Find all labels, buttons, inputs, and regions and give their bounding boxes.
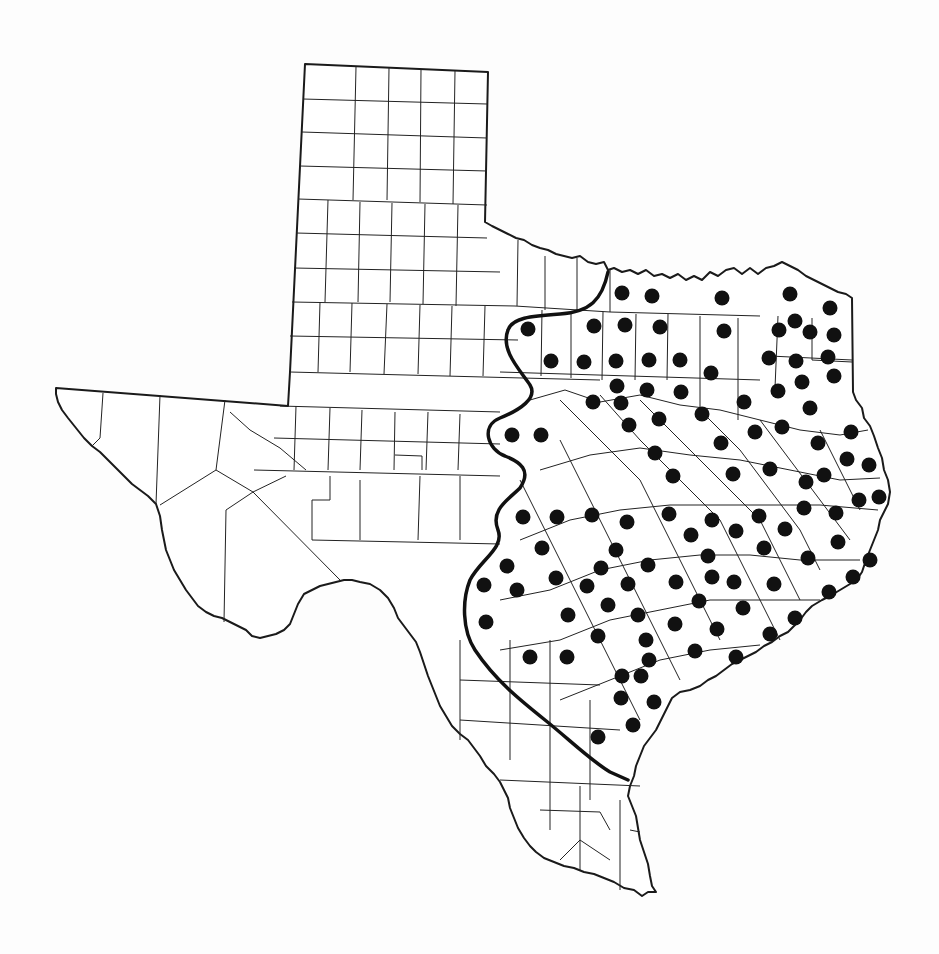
occurrence-dot	[666, 469, 681, 484]
occurrence-dot	[549, 571, 564, 586]
occurrence-dot	[684, 528, 699, 543]
occurrence-dot	[852, 493, 867, 508]
occurrence-dot	[762, 351, 777, 366]
occurrence-dot	[714, 436, 729, 451]
occurrence-dot	[609, 354, 624, 369]
occurrence-dot	[510, 583, 525, 598]
occurrence-dot	[577, 355, 592, 370]
occurrence-dot	[799, 475, 814, 490]
occurrence-dot	[803, 401, 818, 416]
occurrence-dot	[505, 428, 520, 443]
occurrence-dot	[673, 353, 688, 368]
occurrence-dot	[783, 287, 798, 302]
occurrence-dot	[479, 615, 494, 630]
occurrence-dot	[688, 644, 703, 659]
occurrence-dot	[717, 324, 732, 339]
occurrence-dot	[544, 354, 559, 369]
occurrence-dot	[640, 383, 655, 398]
occurrence-dot	[647, 695, 662, 710]
occurrence-dot	[639, 633, 654, 648]
occurrence-dot	[844, 425, 859, 440]
occurrence-dot	[846, 570, 861, 585]
occurrence-dot	[614, 396, 629, 411]
occurrence-dot	[701, 549, 716, 564]
occurrence-dot	[863, 553, 878, 568]
occurrence-dot	[705, 570, 720, 585]
occurrence-dot	[771, 384, 786, 399]
occurrence-dot	[789, 354, 804, 369]
occurrence-dot	[757, 541, 772, 556]
occurrence-dot	[827, 369, 842, 384]
occurrence-dot	[726, 467, 741, 482]
occurrence-dot	[652, 412, 667, 427]
occurrence-dot	[621, 577, 636, 592]
occurrence-dot	[560, 650, 575, 665]
occurrence-dot	[692, 594, 707, 609]
occurrence-dot	[601, 598, 616, 613]
occurrence-dot	[662, 507, 677, 522]
occurrence-dot	[523, 650, 538, 665]
occurrence-dot	[535, 541, 550, 556]
occurrence-dot	[580, 579, 595, 594]
occurrence-dot	[737, 395, 752, 410]
occurrence-dot	[585, 508, 600, 523]
occurrence-dot	[615, 286, 630, 301]
occurrence-dot	[710, 622, 725, 637]
occurrence-dot	[648, 446, 663, 461]
occurrence-dot	[477, 578, 492, 593]
occurrence-dot	[586, 395, 601, 410]
occurrence-dot	[618, 318, 633, 333]
occurrence-dot	[626, 718, 641, 733]
occurrence-dot	[736, 601, 751, 616]
occurrence-dot	[788, 611, 803, 626]
occurrence-dot	[645, 289, 660, 304]
occurrence-dot	[801, 551, 816, 566]
occurrence-dot	[550, 510, 565, 525]
occurrence-dot	[634, 669, 649, 684]
occurrence-dot	[775, 420, 790, 435]
occurrence-dot	[591, 629, 606, 644]
occurrence-dot	[767, 577, 782, 592]
occurrence-dot	[594, 561, 609, 576]
occurrence-dot	[763, 627, 778, 642]
occurrence-dot	[615, 669, 630, 684]
occurrence-dot	[669, 575, 684, 590]
occurrence-dot	[641, 558, 656, 573]
occurrence-dot	[620, 515, 635, 530]
occurrence-dot	[715, 291, 730, 306]
occurrence-dot	[829, 506, 844, 521]
occurrence-dot	[704, 366, 719, 381]
occurrence-dot	[587, 319, 602, 334]
occurrence-dot	[763, 462, 778, 477]
occurrence-dot	[827, 328, 842, 343]
map-canvas	[0, 0, 939, 954]
occurrence-dot	[822, 585, 837, 600]
occurrence-dot	[653, 320, 668, 335]
occurrence-dot	[772, 323, 787, 338]
occurrence-dot	[609, 543, 624, 558]
occurrence-dot	[831, 535, 846, 550]
occurrence-dot	[534, 428, 549, 443]
occurrence-dot	[610, 379, 625, 394]
occurrence-dot	[797, 501, 812, 516]
occurrence-dot	[668, 617, 683, 632]
occurrence-dot	[862, 458, 877, 473]
occurrence-dot	[695, 407, 710, 422]
occurrence-dot	[811, 436, 826, 451]
occurrence-dot	[642, 353, 657, 368]
occurrence-dot	[674, 385, 689, 400]
occurrence-dot	[631, 608, 646, 623]
occurrence-dot	[788, 314, 803, 329]
occurrence-dot	[727, 575, 742, 590]
occurrence-dot	[817, 468, 832, 483]
occurrence-dot	[705, 513, 720, 528]
occurrence-dot	[614, 691, 629, 706]
occurrence-dot	[521, 322, 536, 337]
occurrence-dot	[823, 301, 838, 316]
occurrence-dot	[821, 350, 836, 365]
occurrence-dot	[840, 452, 855, 467]
occurrence-dot	[803, 325, 818, 340]
occurrence-dot	[729, 524, 744, 539]
occurrence-dot	[729, 650, 744, 665]
occurrence-dot	[500, 559, 515, 574]
